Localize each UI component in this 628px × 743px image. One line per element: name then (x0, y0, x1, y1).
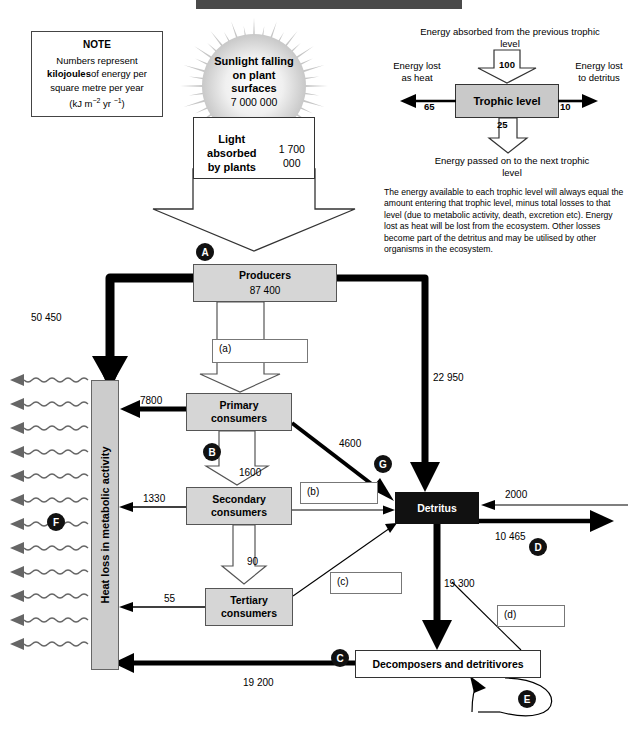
secondary-consumers-label: Secondary consumers (211, 493, 267, 519)
producers-box: Producers 87 400 (193, 264, 337, 302)
secondary-consumers-box: Secondary consumers (186, 487, 292, 525)
primary-consumers-box: Primary consumers (186, 393, 292, 431)
mark-a: A (196, 243, 214, 261)
heat-loss-bar: Heat loss in metabolic activity (91, 380, 119, 670)
light-absorbed-value: 1 700 000 (270, 142, 314, 170)
light-to-producers-arrow (147, 169, 361, 254)
light-absorbed-box: Light absorbed by plants 1 700 000 (193, 117, 315, 179)
mark-c: C (331, 649, 349, 667)
mark-g: G (374, 455, 392, 473)
answer-box-c[interactable]: (c) (330, 572, 402, 594)
value-producers-to-heat: 50 450 (31, 312, 62, 323)
value-primary-to-secondary: 1600 (239, 467, 261, 478)
value-producers-to-detritus: 22 950 (433, 372, 464, 383)
tertiary-consumers-label: Tertiary consumers (221, 594, 277, 620)
producers-value: 87 400 (250, 284, 281, 297)
decomposers-box: Decomposers and detritivores (355, 650, 541, 678)
value-tertiary-to-heat: 55 (164, 593, 175, 604)
detritus-box: Detritus (395, 492, 479, 524)
mark-d: D (529, 538, 547, 556)
value-detritus-in-right: 2000 (505, 489, 527, 500)
value-secondary-to-heat: 1330 (143, 493, 165, 504)
value-decomposers-to-heat: 19 200 (243, 677, 274, 688)
producers-label: Producers (239, 269, 291, 282)
mark-b: B (203, 443, 221, 461)
primary-consumers-label: Primary consumers (211, 399, 267, 425)
value-primary-to-heat: 7800 (140, 395, 162, 406)
answer-box-d[interactable]: (d) (497, 605, 565, 627)
value-detritus-to-decomposers: 19 300 (444, 578, 475, 589)
value-primary-to-detritus: 4600 (339, 438, 361, 449)
heat-loss-label: Heat loss in metabolic activity (99, 446, 111, 603)
tertiary-consumers-box: Tertiary consumers (205, 588, 293, 626)
value-secondary-to-tertiary: 90 (247, 556, 258, 567)
answer-box-b[interactable]: (b) (300, 482, 378, 504)
value-detritus-out-right: 10 465 (495, 531, 526, 542)
light-absorbed-label: Light absorbed by plants (194, 132, 270, 174)
answer-box-a[interactable]: (a) (212, 339, 308, 363)
mark-f: F (47, 513, 65, 531)
mark-e: E (518, 690, 536, 708)
